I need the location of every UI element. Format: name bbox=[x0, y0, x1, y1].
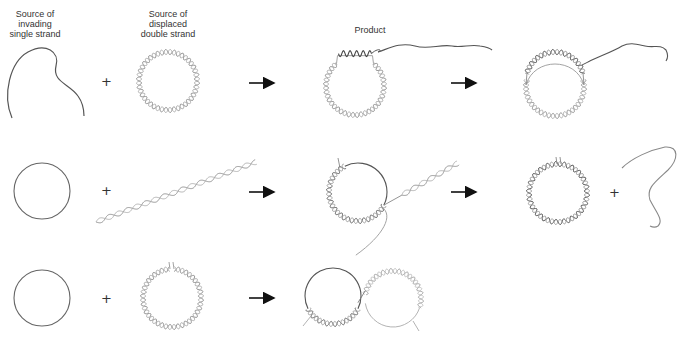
label-displaced-source: Source of displaced double strand bbox=[133, 9, 203, 39]
plus-row1: + bbox=[101, 75, 112, 88]
nicked-circular-duplex-row3 bbox=[140, 262, 203, 329]
label-line: Source of bbox=[0, 9, 70, 19]
label-line: Source of bbox=[133, 9, 203, 19]
circular-single-strand-row3 bbox=[14, 270, 70, 326]
result-circle-row2 bbox=[527, 157, 590, 224]
plus-row2-a: + bbox=[101, 184, 112, 197]
label-line: single strand bbox=[0, 29, 70, 39]
result-tail-row1 bbox=[588, 44, 668, 62]
plus-row3: + bbox=[101, 292, 112, 305]
linear-duplex-row2 bbox=[96, 160, 257, 223]
circular-duplex-row1 bbox=[137, 50, 200, 113]
label-line: invading bbox=[0, 19, 70, 29]
invading-single-strand bbox=[8, 48, 84, 118]
label-product: Product bbox=[350, 25, 390, 35]
diagram-canvas bbox=[0, 0, 687, 340]
label-invading-source: Source of invading single strand bbox=[0, 9, 70, 39]
displaced-single-strand-row2 bbox=[622, 147, 676, 227]
label-line: double strand bbox=[133, 29, 203, 39]
label-line: displaced bbox=[133, 19, 203, 29]
intermediate-row2 bbox=[327, 158, 460, 255]
product-tail-row1 bbox=[378, 45, 492, 52]
linked-circles-row3 bbox=[303, 268, 424, 331]
plus-row2-b: + bbox=[609, 186, 620, 199]
product-dloop-row1 bbox=[324, 50, 387, 118]
result-row1 bbox=[523, 49, 588, 118]
circular-single-strand-row2 bbox=[14, 163, 70, 219]
